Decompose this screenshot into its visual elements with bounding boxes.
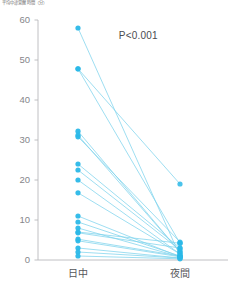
x-tick-label-nighttime: 夜間: [150, 268, 210, 280]
data-point: [75, 253, 80, 258]
data-point: [75, 167, 80, 172]
data-point: [177, 241, 182, 246]
connector-line: [78, 193, 180, 254]
x-tick-label-daytime: 日中: [48, 268, 108, 280]
connector-lines: [78, 28, 180, 259]
data-point: [75, 134, 80, 139]
data-point: [177, 181, 182, 186]
data-point: [177, 245, 182, 250]
connector-line: [78, 137, 180, 242]
data-point: [75, 190, 80, 195]
y-tick-label: 50: [4, 55, 30, 65]
y-tick-label: 10: [4, 215, 30, 225]
data-point: [75, 161, 80, 166]
y-tick-label: 0: [4, 255, 30, 265]
data-point: [75, 213, 80, 218]
plot-area: [0, 0, 233, 294]
data-point: [177, 256, 182, 261]
paired-slope-chart: 平均中途覚醒時間（分） 6050403020100 日中夜間 P<0.001: [0, 0, 233, 294]
connector-line: [78, 222, 180, 256]
data-point: [75, 230, 80, 235]
data-point: [75, 25, 80, 30]
y-tick-label: 30: [4, 135, 30, 145]
y-tick-label: 40: [4, 95, 30, 105]
connector-line: [78, 69, 180, 184]
data-point: [75, 219, 80, 224]
y-tick-label: 20: [4, 175, 30, 185]
p-value-annotation: P<0.001: [119, 30, 158, 41]
data-point: [75, 177, 80, 182]
data-point: [75, 238, 80, 243]
y-tick-label: 60: [4, 15, 30, 25]
data-point: [75, 66, 80, 71]
axis-lines: [35, 20, 229, 260]
